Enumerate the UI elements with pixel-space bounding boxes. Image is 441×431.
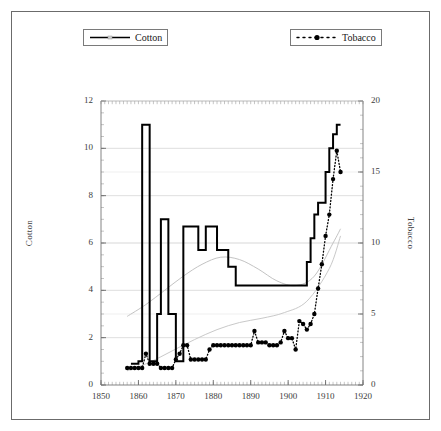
- x-tick-label: 1880: [196, 392, 230, 401]
- y-tick-label: 12: [71, 96, 93, 105]
- y2-tick-label: 0: [371, 380, 393, 389]
- x-tick-label: 1920: [346, 392, 380, 401]
- y2-tick-label: 10: [371, 238, 393, 247]
- x-tick-label: 1850: [84, 392, 118, 401]
- y-tick-label: 10: [71, 143, 93, 152]
- x-tick-label: 1890: [234, 392, 268, 401]
- y2-tick-label: 20: [371, 96, 393, 105]
- y-tick-label: 0: [71, 380, 93, 389]
- y2-tick-label: 15: [371, 167, 393, 176]
- data-series: [125, 125, 343, 370]
- x-tick-label: 1860: [121, 392, 155, 401]
- x-tick-label: 1900: [271, 392, 305, 401]
- chart-figure: Cotton Tobacco Cotton Tobacco 1850186018…: [0, 0, 441, 431]
- x-tick-label: 1870: [159, 392, 193, 401]
- y-tick-label: 2: [71, 333, 93, 342]
- y-tick-label: 4: [71, 285, 93, 294]
- plot-area: [0, 0, 441, 431]
- y-tick-label: 8: [71, 191, 93, 200]
- trend-curves: [127, 229, 340, 371]
- x-tick-label: 1910: [309, 392, 343, 401]
- y2-tick-label: 5: [371, 309, 393, 318]
- grid-lines: [101, 101, 363, 338]
- y-tick-label: 6: [71, 238, 93, 247]
